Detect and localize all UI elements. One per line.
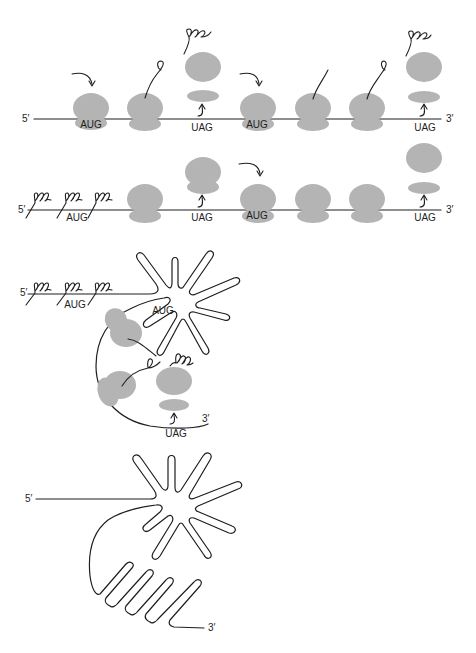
panel-1-linear-polysome: 5′ 3′ AUG UAG (22, 29, 454, 133)
ribosome-released (156, 354, 193, 424)
three-prime-label: 3′ (202, 413, 210, 424)
ribosome-elongating (295, 70, 331, 131)
ribosome-elongating (93, 359, 160, 410)
mrna-folded-strand (36, 453, 242, 628)
panel-2-polysome: 5′ 3′ AUG UAG AUG (18, 143, 454, 223)
five-prime-label: 5′ (25, 493, 33, 504)
three-prime-label: 3′ (446, 204, 454, 215)
ribosome-elongating (349, 61, 386, 131)
peptide-chain (170, 354, 193, 366)
codon-label-uag: UAG (165, 428, 187, 439)
arrow-icon (72, 73, 92, 84)
ribosome-elongating (127, 61, 163, 131)
panel-3-circularized-polysome: 5′ AUG AUG 3′ UAG (20, 251, 240, 439)
ribosome-elongating (349, 184, 385, 223)
ribosome-elongating (127, 184, 163, 223)
codon-label-aug: AUG (246, 210, 268, 221)
ribosome-elongating (100, 304, 156, 356)
codon-label-uag: UAG (191, 212, 213, 223)
codon-label-uag: UAG (191, 122, 213, 133)
ribosome-released (406, 31, 442, 116)
peptide-chain (184, 29, 211, 54)
panel-4-mrna-secondary-structure: 5′ 3′ (25, 453, 242, 633)
codon-label-aug: AUG (152, 305, 174, 316)
codon-label-uag: UAG (414, 212, 436, 223)
ribosome-elongating (295, 184, 331, 223)
codon-label-aug: AUG (66, 212, 88, 223)
five-prime-label: 5′ (22, 113, 30, 124)
five-prime-label: 5′ (20, 287, 28, 298)
ribosome-terminating (185, 157, 221, 207)
codon-label-uag: UAG (414, 122, 436, 133)
codon-label-aug: AUG (246, 119, 268, 130)
codon-label-aug: AUG (64, 299, 86, 310)
three-prime-label: 3′ (208, 622, 216, 633)
ribosome-released (184, 29, 221, 116)
translation-diagram: 5′ 3′ AUG UAG (0, 0, 476, 653)
codon-label-aug: AUG (80, 119, 102, 130)
ribosome-released (406, 143, 442, 207)
three-prime-label: 3′ (446, 113, 454, 124)
five-prime-label: 5′ (18, 204, 26, 215)
